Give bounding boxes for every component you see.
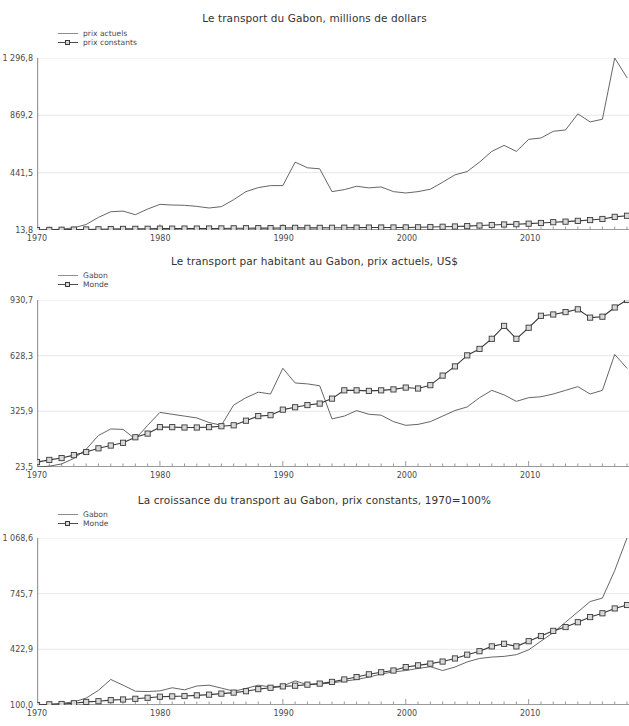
x-tick-label: 1990 (273, 709, 293, 718)
legend-label: prix actuels (83, 29, 127, 38)
chart-title: La croissance du transport au Gabon, pri… (0, 494, 629, 506)
legend-item-prix-constants[interactable]: prix constants (57, 38, 137, 47)
legend-key-line-icon (57, 29, 79, 38)
legend-key-line-icon (57, 510, 79, 519)
chart-svg (37, 58, 629, 230)
plot-area (37, 538, 629, 705)
x-tick-label: 2010 (520, 234, 540, 243)
chart-panel-croissance-transport: La croissance du transport au Gabon, pri… (0, 490, 629, 726)
legend-item-gabon[interactable]: Gabon (57, 271, 109, 280)
y-tick-label: 422,9 (0, 645, 33, 654)
y-tick-label: 628,3 (0, 351, 33, 360)
x-tick-label: 1970 (27, 471, 47, 480)
chart-panel-transport-millions: Le transport du Gabon, millions de dolla… (0, 0, 629, 248)
y-tick-label: 325,9 (0, 407, 33, 416)
chart-legend: Gabon Monde (57, 271, 109, 289)
x-tick-label: 1970 (27, 709, 47, 718)
legend-item-gabon[interactable]: Gabon (57, 510, 109, 519)
legend-item-monde[interactable]: Monde (57, 280, 109, 289)
chart-svg (37, 538, 629, 705)
y-tick-label: 441,5 (0, 168, 33, 177)
figure-root: Le transport du Gabon, millions de dolla… (0, 0, 629, 726)
plot-area (37, 300, 629, 467)
chart-title: Le transport du Gabon, millions de dolla… (0, 12, 629, 24)
x-tick-label: 2000 (397, 471, 417, 480)
chart-legend: prix actuels prix constants (57, 29, 137, 47)
x-tick-label: 1980 (150, 471, 170, 480)
legend-label: Monde (83, 280, 109, 289)
legend-label: Monde (83, 519, 109, 528)
y-tick-label: 1 296,8 (0, 54, 33, 63)
chart-svg (37, 300, 629, 467)
plot-area (37, 58, 629, 230)
chart-legend: Gabon Monde (57, 510, 109, 528)
x-tick-label: 1980 (150, 234, 170, 243)
y-tick-label: 930,7 (0, 296, 33, 305)
legend-key-line-marker-icon (57, 38, 79, 47)
legend-item-monde[interactable]: Monde (57, 519, 109, 528)
y-tick-label: 869,2 (0, 111, 33, 120)
x-tick-label: 1990 (273, 234, 293, 243)
chart-panel-transport-par-habitant: Le transport par habitant au Gabon, prix… (0, 248, 629, 490)
x-tick-label: 1980 (150, 709, 170, 718)
legend-key-line-marker-icon (57, 519, 79, 528)
legend-label: Gabon (83, 510, 108, 519)
legend-item-prix-actuels[interactable]: prix actuels (57, 29, 137, 38)
x-tick-label: 2010 (520, 471, 540, 480)
x-tick-label: 2010 (520, 709, 540, 718)
legend-key-line-marker-icon (57, 280, 79, 289)
legend-label: Gabon (83, 271, 108, 280)
y-tick-label: 1 068,6 (0, 534, 33, 543)
chart-title: Le transport par habitant au Gabon, prix… (0, 255, 629, 267)
x-tick-label: 1990 (273, 471, 293, 480)
y-tick-label: 745,7 (0, 589, 33, 598)
x-tick-label: 1970 (27, 234, 47, 243)
x-tick-label: 2000 (397, 234, 417, 243)
legend-label: prix constants (83, 38, 137, 47)
x-tick-label: 2000 (397, 709, 417, 718)
legend-key-line-icon (57, 271, 79, 280)
